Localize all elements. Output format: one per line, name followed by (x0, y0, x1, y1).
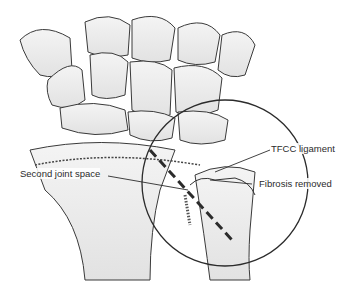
radius (30, 143, 175, 281)
triquetrum (178, 111, 228, 144)
scaphoid (60, 103, 128, 134)
metacarpal-3 (132, 16, 175, 62)
label-tfcc-ligament: TFCC ligament (271, 143, 335, 154)
label-fibrosis-removed: Fibrosis removed (259, 178, 332, 189)
hamate (174, 66, 222, 116)
metacarpal-4 (178, 23, 220, 65)
label-second-joint-space: Second joint space (20, 168, 100, 179)
lunate (128, 111, 175, 141)
metacarpal-5 (218, 32, 255, 77)
trapezoid (90, 53, 128, 99)
metacarpal-2 (85, 17, 130, 57)
illustration: TFCC ligament Fibrosis removed Second jo… (0, 0, 348, 287)
capitate (130, 61, 172, 118)
